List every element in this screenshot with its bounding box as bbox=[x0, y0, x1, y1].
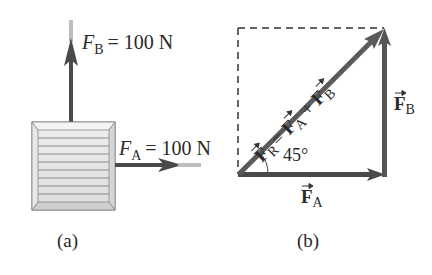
vector-a-label: FA bbox=[301, 184, 324, 211]
force-b-arrow bbox=[64, 20, 78, 122]
vector-a-arrow bbox=[238, 168, 385, 181]
caption-a: (a) bbox=[57, 230, 78, 252]
force-a-arrow bbox=[115, 158, 201, 172]
crate-icon bbox=[32, 122, 115, 210]
svg-text:FB: FB bbox=[394, 93, 415, 117]
svg-text:FA: FA bbox=[301, 186, 324, 210]
vector-b-arrow bbox=[378, 28, 391, 177]
diagram-a: FB= 100 N FA= 100 N (a) bbox=[32, 20, 211, 252]
diagram-b: 45° FR= FA + FB FB FA bbox=[238, 28, 415, 252]
force-diagram-canvas: FB= 100 N FA= 100 N (a) 45° bbox=[0, 0, 432, 275]
vector-b-label: FB bbox=[394, 91, 415, 118]
angle-label: 45° bbox=[283, 145, 308, 165]
caption-b: (b) bbox=[297, 230, 319, 252]
force-b-label: FB= 100 N bbox=[81, 31, 173, 57]
force-a-label: FA= 100 N bbox=[118, 137, 211, 163]
